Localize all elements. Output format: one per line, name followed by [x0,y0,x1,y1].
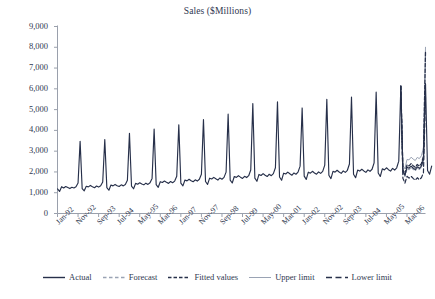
y-axis-tick-label: 7,000 [2,63,48,72]
legend-item[interactable]: Upper limit [249,272,314,282]
legend-item[interactable]: Lower limit [326,272,392,282]
legend-label: Fitted values [194,272,238,282]
y-axis-tick-label: 9,000 [2,22,48,31]
chart-legend: ActualForecastFitted valuesUpper limitLo… [0,272,435,282]
legend-label: Actual [69,272,92,282]
legend-label: Upper limit [275,272,314,282]
y-axis-tick-label: 8,000 [2,42,48,51]
sales-forecast-chart: Sales ($Millions) 01,0002,0003,0004,0005… [0,0,435,299]
legend-line-icon [249,274,271,281]
legend-label: Forecast [129,272,158,282]
legend-label: Lower limit [352,272,392,282]
plot-canvas [0,0,435,299]
y-axis-tick-label: 4,000 [2,125,48,134]
y-axis-tick-label: 0 [2,209,48,218]
y-axis-tick-label: 1,000 [2,188,48,197]
legend-item[interactable]: Forecast [103,272,158,282]
legend-line-icon [103,274,125,281]
legend-item[interactable]: Fitted values [168,272,238,282]
legend-line-icon [326,274,348,281]
y-axis-tick-label: 6,000 [2,84,48,93]
y-axis-tick-label: 2,000 [2,167,48,176]
legend-item[interactable]: Actual [43,272,92,282]
legend-line-icon [43,274,65,281]
y-axis-tick-label: 3,000 [2,146,48,155]
legend-line-icon [168,274,190,281]
y-axis-tick-label: 5,000 [2,105,48,114]
